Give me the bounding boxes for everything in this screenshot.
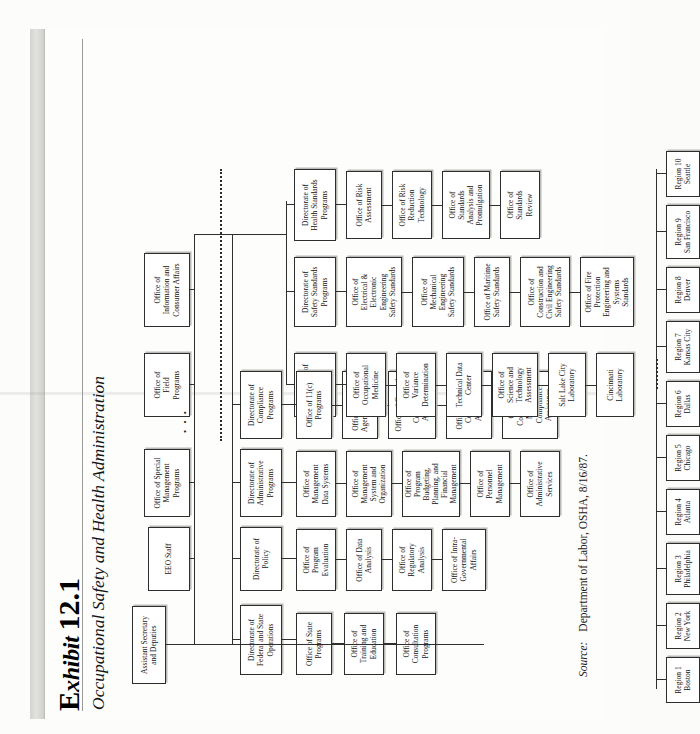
connector-directorate-bus [232, 235, 233, 645]
node-directorate-policy: Directorate ofPolicy [240, 527, 282, 591]
node-label: Office ofProgramEvaluation [302, 544, 329, 577]
connector-maritime-stem [510, 292, 520, 293]
connector-personnel-stem [510, 483, 520, 484]
connector-region-2-riser [656, 625, 666, 626]
node-office-11c-programs: Office of 11(c)Programs [296, 371, 332, 439]
connector-admin-stem [282, 482, 296, 483]
connector-region-7-riser [656, 346, 666, 347]
node-label: Region 4Atlanta [674, 498, 692, 525]
node-label: Office ofMechanicalEngineeringSafety Sta… [420, 267, 456, 318]
node-label: Office ofFieldPrograms [153, 371, 180, 400]
node-label: Region 10Seattle [674, 158, 692, 189]
node-office-variance-determination: Office ofVarianceDetermination [396, 353, 436, 417]
node-directorate-health-standards-programs: Directorate ofHealth StandardsPrograms [294, 169, 336, 241]
connector-policy-riser [232, 558, 240, 559]
node-office-program-evaluation: Office ofProgramEvaluation [296, 529, 336, 591]
node-office-field-programs: Office ofFieldPrograms [144, 353, 190, 417]
connector-budget-stem [460, 483, 470, 484]
node-label: CincinnatiLaboratory [606, 368, 624, 401]
node-label: Office ofProgramBudgeting,Planning, andF… [404, 463, 458, 504]
connector-special-mgmt-drop [190, 482, 194, 483]
node-office-maritime-safety-standards: Office of MaritimeSafety Standards [474, 257, 510, 327]
node-label: Region 5Chicago [674, 444, 692, 471]
connector-region-8-riser [656, 289, 666, 290]
exhibit-kicker-word: xhibit [58, 636, 84, 692]
node-office-data-analysis: Office of DataAnalysis [346, 529, 382, 591]
connector-info-consumer-drop [190, 289, 194, 290]
node-label: Office ofPersonnelManagement [476, 464, 503, 503]
connector-technical-riser [286, 384, 294, 385]
node-office-mechanical-engineering-safety-standards: Office ofMechanicalEngineeringSafety Sta… [412, 257, 464, 327]
node-office-personnel-management: Office ofPersonnelManagement [470, 451, 510, 517]
node-label: Office of SpecialManagementPrograms [153, 457, 180, 508]
source-line: Source:Department of Labor, OSHA, 8/16/8… [577, 454, 589, 677]
node-label: Office ofRegulatoryAnalysis [398, 543, 425, 576]
connector-tdc-stem [482, 385, 492, 386]
connector-variance-stem [436, 385, 446, 386]
node-label: Directorate ofHealth StandardsPrograms [301, 179, 328, 231]
node-directorate-administrative-programs: Directorate ofAdministrativePrograms [240, 449, 282, 517]
node-region-5: Region 5Chicago [666, 435, 700, 481]
node-label: Region 7Kansas City [674, 329, 692, 365]
connector-sta-stem [538, 385, 548, 386]
node-label: Office ofInformation andConsumer Affairs [153, 263, 180, 316]
node-label: Office of Intra-GovernmentalAffairs [450, 537, 477, 583]
node-label: Directorate ofSafety StandardsPrograms [301, 267, 328, 318]
node-technical-data-center: Technical DataCenter [446, 353, 482, 417]
node-label: Region 6Dallas [674, 390, 692, 417]
connector-directorate-spine [194, 644, 232, 645]
region-spine-dotted-mark [656, 359, 658, 389]
connector-root-spine [166, 644, 194, 645]
rotated-exhibit-canvas: Exhibit12.1 Occupational Safety and Heal… [44, 29, 604, 719]
page-gutter-shadow [30, 29, 44, 719]
node-eeo-staff: EEO Staff [148, 527, 190, 591]
node-salt-lake-city-laboratory: Salt Lake CityLaboratory [548, 353, 586, 417]
connector-region-1-riser [656, 679, 666, 680]
connector-fso-stem [282, 639, 296, 640]
node-office-risk-reduction-technology: Office of RiskReductionTechnology [392, 171, 432, 239]
connector-11c-stem [332, 405, 342, 406]
node-directorate-safety-standards-programs: Directorate ofSafety StandardsPrograms [294, 257, 336, 327]
node-office-intragovernmental-affairs: Office of Intra-GovernmentalAffairs [442, 529, 486, 591]
node-office-fire-protection-engineering-systems-standards: Office of FireProtectionEngineering andS… [580, 257, 634, 327]
node-office-program-budgeting: Office ofProgramBudgeting,Planning, andF… [402, 451, 460, 517]
connector-field-programs-drop [190, 384, 194, 385]
node-region-1: Region 1Boston [666, 657, 700, 703]
connector-health-stem [336, 204, 346, 205]
connector-technical-stem [336, 384, 346, 385]
node-label: Office of MaritimeSafety Standards [483, 264, 501, 321]
connector-region-6-riser [656, 403, 666, 404]
node-label: Office ofScience andTechnologyAssessment [497, 367, 533, 403]
connector-occmed-stem [386, 385, 396, 386]
connector-region-9-riser [656, 231, 666, 232]
exhibit-kicker-initial: E [53, 692, 85, 711]
node-label: Office ofStandardsReview [506, 190, 533, 220]
connector-program-eval-stem [336, 559, 346, 560]
connector-eee-stem [402, 292, 412, 293]
connector-policy-stem [282, 558, 296, 559]
node-label: Region 9San Francisco [674, 211, 692, 253]
node-label: EEO Staff [164, 544, 173, 575]
node-label: Office of 11(c)Programs [305, 383, 323, 428]
node-label: Region 3Philadelphia [674, 550, 692, 588]
source-text: Department of Labor, OSHA, 8/16/87. [577, 454, 589, 631]
node-label: Directorate ofPolicy [252, 538, 270, 580]
connector-risk-assessment-stem [382, 205, 392, 206]
connector-health-riser [286, 204, 294, 205]
node-label: Office of FireProtectionEngineering andS… [584, 267, 629, 316]
node-label: Office of DataAnalysis [355, 538, 373, 581]
node-label: Office of RiskReductionTechnology [398, 184, 425, 227]
exhibit-number: 12.1 [52, 578, 85, 631]
connector-right-rail [286, 201, 287, 385]
node-label: Assistant Secretaryand Deputies [140, 616, 158, 674]
connector-region-4-riser [656, 511, 666, 512]
node-label: Technical DataCenter [455, 362, 473, 407]
node-label: Office ofManagementSystem andOrganizatio… [351, 464, 387, 503]
node-label: Office of RiskAssessment [355, 184, 373, 227]
connector-risk-reduction-stem [432, 205, 442, 206]
connector-ccivil-stem [570, 292, 580, 293]
node-office-management-system-organization: Office ofManagementSystem andOrganizatio… [346, 451, 392, 517]
exhibit-title: Occupational Safety and Health Administr… [88, 376, 109, 710]
node-region-2: Region 2New York [666, 603, 700, 649]
node-directorate-compliance-programs: Directorate ofCompliancePrograms [240, 371, 282, 439]
